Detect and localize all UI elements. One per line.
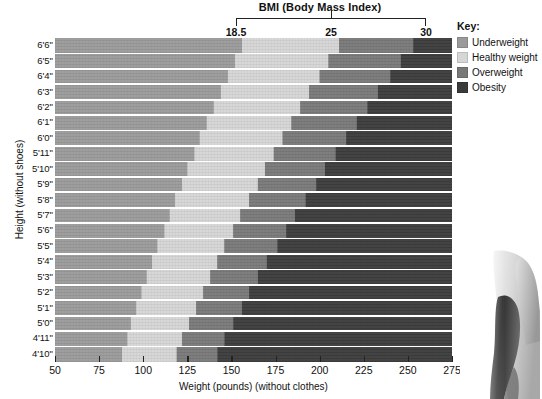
y-axis-tick-label: 6'4" (1, 70, 53, 81)
x-axis-tick-mark (408, 356, 409, 362)
y-axis-tick-label: 5'3" (1, 271, 53, 282)
legend-item-label: Healthy weight (472, 52, 538, 63)
x-axis-tick-label: 50 (35, 364, 75, 376)
x-axis-tick-label: 150 (211, 364, 251, 376)
height-gridline (55, 238, 452, 240)
legend-item-label: Obesity (472, 82, 506, 93)
bmi-tick-label: 30 (404, 26, 448, 38)
legend-swatch-icon (457, 82, 468, 93)
legend-item[interactable]: Obesity (457, 80, 542, 94)
x-axis-tick-label: 250 (388, 364, 428, 376)
height-gridline (55, 299, 452, 301)
legend-item[interactable]: Overweight (457, 65, 542, 79)
chart-plot-area (55, 38, 452, 362)
height-gridline (55, 315, 452, 317)
x-axis-tick-mark (364, 356, 365, 362)
y-axis-tick-label: 6'2" (1, 101, 53, 112)
bmi-bracket (236, 18, 426, 26)
height-gridline (55, 222, 452, 224)
height-gridline (55, 284, 452, 286)
y-axis-tick-label: 5'0" (1, 317, 53, 328)
y-axis-tick-label: 6'6" (1, 39, 53, 50)
y-axis-ticks: 6'6"6'5"6'4"6'3"6'2"6'1"6'0"5'11"5'10"5'… (0, 38, 53, 362)
height-gridline (55, 53, 452, 55)
y-axis-tick-label: 5'4" (1, 255, 53, 266)
y-axis-tick-label: 6'5" (1, 55, 53, 66)
height-gridline (55, 130, 452, 132)
legend-swatch-icon (457, 52, 468, 63)
bmi-band-svg (55, 38, 452, 362)
y-axis-tick-label: 5'2" (1, 286, 53, 297)
x-axis-tick-label: 125 (167, 364, 207, 376)
height-gridline (55, 114, 452, 116)
y-axis-tick-label: 5'7" (1, 209, 53, 220)
y-axis-tick-label: 5'9" (1, 178, 53, 189)
x-axis-tick-label: 175 (256, 364, 296, 376)
legend-swatch-icon (457, 67, 468, 78)
person-photo (460, 249, 542, 399)
height-gridline (55, 269, 452, 271)
height-gridline (55, 330, 452, 332)
height-gridline (55, 207, 452, 209)
y-axis-tick-label: 6'3" (1, 86, 53, 97)
y-axis-tick-label: 5'10" (1, 163, 53, 174)
x-axis-tick-mark (187, 356, 188, 362)
height-gridline (55, 145, 452, 147)
height-gridline (55, 346, 452, 348)
legend-item-label: Underweight (472, 37, 528, 48)
y-axis-tick-label: 4'10" (1, 348, 53, 359)
height-gridline (55, 83, 452, 85)
legend-title: Key: (457, 20, 542, 32)
bmi-tick-label: 25 (309, 26, 353, 38)
bmi-axis-title: BMI (Body Mass Index) (180, 1, 460, 13)
y-axis-tick-label: 5'11" (1, 147, 53, 158)
legend-item[interactable]: Underweight (457, 35, 542, 49)
y-axis-tick-label: 4'11" (1, 332, 53, 343)
legend-item-label: Overweight (472, 67, 523, 78)
legend-swatch-icon (457, 37, 468, 48)
bmi-chart-page: BMI (Body Mass Index) 18.52530 6'6"6'5"6… (0, 0, 542, 399)
y-axis-tick-label: 5'5" (1, 240, 53, 251)
person-photo-image (460, 249, 542, 399)
x-axis-tick-label: 100 (123, 364, 163, 376)
y-axis-tick-label: 5'1" (1, 302, 53, 313)
x-axis-tick-mark (55, 356, 56, 362)
y-axis-title: Height (without shoes) (14, 105, 25, 275)
bmi-color-bands (55, 38, 452, 362)
legend-items: UnderweightHealthy weightOverweightObesi… (457, 35, 542, 94)
bmi-tick-label: 18.5 (214, 26, 258, 38)
height-gridline (55, 176, 452, 178)
height-gridline (55, 253, 452, 255)
x-axis-tick-label: 200 (300, 364, 340, 376)
y-axis-tick-label: 6'0" (1, 132, 53, 143)
height-gridline (55, 191, 452, 193)
x-axis-tick-label: 225 (344, 364, 384, 376)
x-axis-tick-label: 75 (79, 364, 119, 376)
x-axis-tick-mark (320, 356, 321, 362)
x-axis-tick-mark (143, 356, 144, 362)
y-axis-tick-label: 5'6" (1, 224, 53, 235)
height-gridline (55, 68, 452, 70)
legend: Key: UnderweightHealthy weightOverweight… (457, 20, 542, 95)
legend-item[interactable]: Healthy weight (457, 50, 542, 64)
x-axis-tick-mark (231, 356, 232, 362)
height-gridline (55, 99, 452, 101)
x-axis-tick-mark (276, 356, 277, 362)
x-axis-tick-mark (99, 356, 100, 362)
height-gridline (55, 161, 452, 163)
y-axis-tick-label: 6'1" (1, 116, 53, 127)
y-axis-tick-label: 5'8" (1, 194, 53, 205)
x-axis-tick-mark (452, 356, 453, 362)
x-axis-title: Weight (pounds) (without clothes) (55, 381, 452, 392)
